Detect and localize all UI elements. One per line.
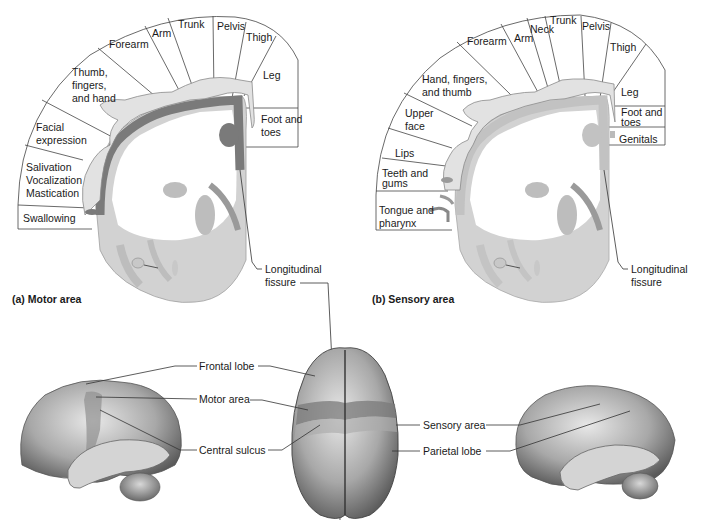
sensory-label-forearm: Forearm (467, 35, 507, 47)
sensory-label-teeth-2: gums (382, 177, 408, 189)
motor-label-thumb-3: and hand (72, 92, 116, 104)
motor-label-foot-2: toes (261, 126, 281, 138)
motor-label-pelvis: Pelvis (217, 20, 245, 32)
sensory-label-trunk: Trunk (550, 14, 577, 26)
motor-label-foot-1: Foot and (261, 113, 303, 125)
sensory-label-genitals: Genitals (619, 133, 658, 145)
motor-fissure-label-1: Longitudinal (265, 263, 322, 275)
motor-label-vocalization: Vocalization (26, 174, 82, 186)
sensory-label-neck: Neck (530, 23, 555, 35)
motor-label-thigh: Thigh (246, 31, 272, 43)
sensory-label-hand-1: Hand, fingers, (422, 73, 487, 85)
motor-label-thumb-2: fingers, (72, 79, 106, 91)
motor-label-trunk: Trunk (178, 18, 205, 30)
motor-label-mastication: Mastication (26, 187, 79, 199)
sensory-fissure-label-2: fissure (631, 276, 662, 288)
sensory-label-hand-2: and thumb (422, 86, 472, 98)
motor-label-facial-1: Facial (36, 121, 64, 133)
sensory-label-arm: Arm (514, 32, 534, 44)
label-parietal-lobe: Parietal lobe (423, 445, 482, 457)
left-lateral-brain (18, 378, 186, 501)
sensory-label-pelvis: Pelvis (582, 20, 610, 32)
motor-label-thumb-1: Thumb, (72, 66, 108, 78)
label-central-sulcus: Central sulcus (199, 444, 266, 456)
motor-label-arm: Arm (152, 27, 172, 39)
label-sensory-area: Sensory area (423, 419, 486, 431)
sensory-label-leg: Leg (621, 86, 639, 98)
sensory-label-upper-face-1: Upper (405, 107, 434, 119)
right-lateral-brain (510, 380, 680, 499)
sensory-homunculus-diagram: Trunk Pelvis Neck Arm Forearm Thigh Hand… (372, 14, 688, 305)
sensory-label-upper-face-2: face (405, 120, 425, 132)
motor-label-leg: Leg (263, 69, 281, 81)
motor-label-facial-2: expression (36, 134, 87, 146)
sensory-label-thigh: Thigh (610, 41, 636, 53)
motor-label-swallowing: Swallowing (23, 212, 76, 224)
label-motor-area: Motor area (199, 393, 250, 405)
sensory-label-tongue-1: Tongue and (379, 204, 434, 216)
label-frontal-lobe: Frontal lobe (199, 360, 255, 372)
sensory-label-lips: Lips (395, 147, 414, 159)
motor-label-salivation: Salivation (26, 161, 72, 173)
motor-fissure-label-2: fissure (265, 276, 296, 288)
sensory-label-foot-2: toes (621, 116, 641, 128)
motor-label-forearm: Forearm (109, 38, 149, 50)
sensory-fissure-label-1: Longitudinal (631, 263, 688, 275)
sensory-label-tongue-2: pharynx (379, 217, 417, 229)
motor-area-caption: (a) Motor area (12, 293, 82, 305)
sensory-area-caption: (b) Sensory area (372, 293, 454, 305)
